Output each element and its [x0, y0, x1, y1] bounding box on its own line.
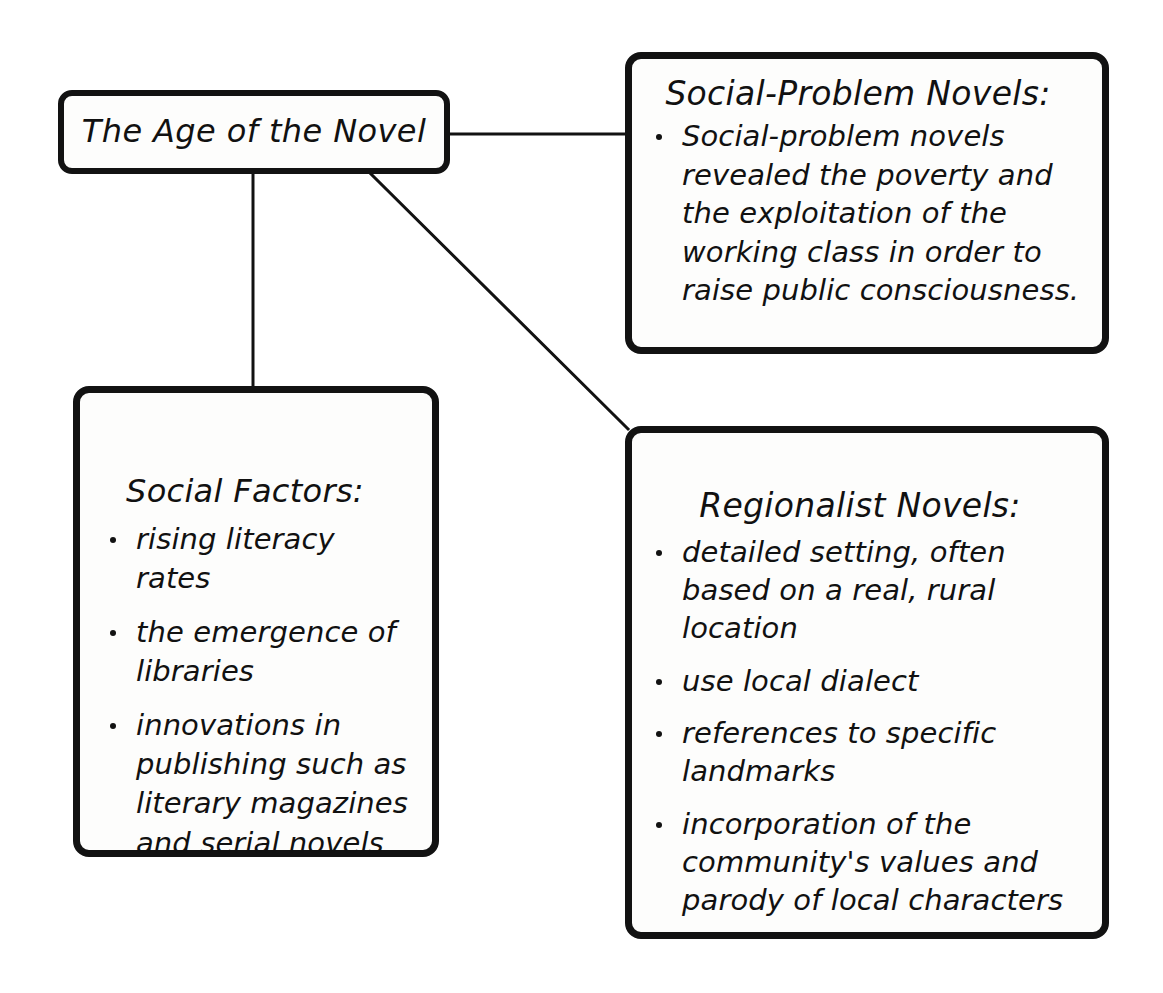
regionalist-heading: Regionalist Novels: [648, 487, 1086, 525]
list-item: Social-problem novels revealed the pover… [648, 117, 1082, 310]
list-item: incorporation of the community's values … [648, 805, 1086, 920]
list-item: detailed setting, often based on a real,… [648, 533, 1086, 648]
node-social-factors[interactable]: Social Factors: rising literacy rates th… [73, 386, 439, 857]
social-factors-bullet-list: rising literacy rates the emergence of l… [102, 520, 414, 864]
root-title-text: The Age of the Novel [82, 114, 426, 149]
regionalist-bullet-list: detailed setting, often based on a real,… [648, 533, 1086, 919]
social-problem-heading: Social-Problem Novels: [648, 75, 1082, 113]
list-item: references to specific landmarks [648, 714, 1086, 791]
list-item: use local dialect [648, 662, 1086, 700]
social-problem-bullet-list: Social-problem novels revealed the pover… [648, 117, 1082, 310]
node-regionalist-novels[interactable]: Regionalist Novels: detailed setting, of… [625, 426, 1109, 939]
node-social-problem-novels[interactable]: Social-Problem Novels: Social-problem no… [625, 52, 1109, 354]
list-item: rising literacy rates [102, 520, 414, 599]
node-age-of-the-novel[interactable]: The Age of the Novel [58, 90, 450, 174]
concept-map-canvas: The Age of the Novel Social-Problem Nove… [0, 0, 1163, 993]
social-factors-heading: Social Factors: [102, 473, 414, 510]
list-item: innovations in publishing such as litera… [102, 706, 414, 864]
list-item: the emergence of libraries [102, 613, 414, 692]
